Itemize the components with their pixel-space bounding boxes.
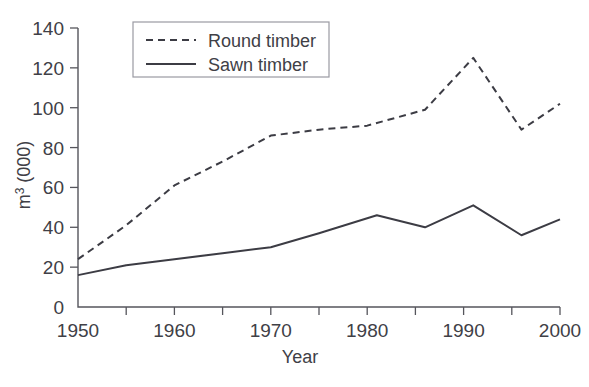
series-line-sawn-timber [78,205,560,275]
y-axis-tick-labels: 020406080100120140 [32,18,64,318]
series-line-round-timber [78,58,560,259]
legend-label-sawn-timber: Sawn timber [208,55,308,75]
legend-label-round-timber: Round timber [208,31,316,51]
x-tick-label: 1970 [250,320,292,341]
timber-production-line-chart: 020406080100120140 195019601970198019902… [0,0,589,387]
y-tick-label: 100 [32,98,64,119]
y-tick-label: 0 [53,297,64,318]
x-tick-label: 2000 [539,320,581,341]
y-tick-label: 120 [32,58,64,79]
chart-legend: Round timber Sawn timber [133,22,329,77]
y-axis-title: m3 (000) [13,141,34,210]
x-axis-tick-marks [126,307,560,315]
x-tick-label: 1950 [57,320,99,341]
x-axis-tick-labels: 195019601970198019902000 [57,320,581,341]
x-tick-label: 1990 [442,320,484,341]
x-tick-label: 1960 [153,320,195,341]
y-axis-tick-marks [70,28,78,267]
series-layer [78,58,560,275]
y-tick-label: 80 [43,138,64,159]
y-tick-label: 60 [43,177,64,198]
y-tick-label: 20 [43,257,64,278]
y-tick-label: 140 [32,18,64,39]
x-tick-label: 1980 [346,320,388,341]
x-axis-title: Year [282,347,318,367]
chart-canvas: 020406080100120140 195019601970198019902… [0,0,589,387]
y-tick-label: 40 [43,217,64,238]
